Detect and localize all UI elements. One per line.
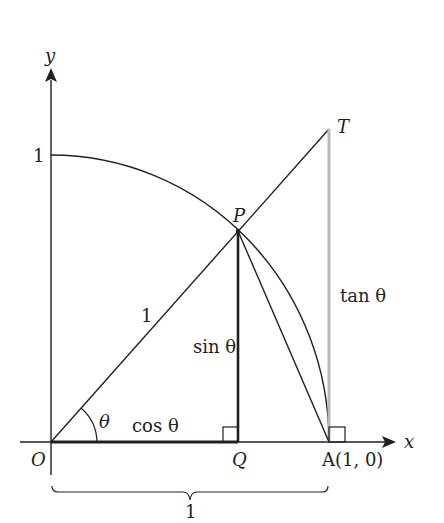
label-T: T [337, 116, 351, 137]
point-P-dot [236, 229, 240, 233]
label-A: A(1, 0) [321, 449, 383, 470]
y-axis [45, 68, 57, 475]
label-O: O [31, 449, 46, 470]
angle-theta-label: θ [99, 411, 110, 432]
cos-label: cos θ [132, 415, 179, 436]
unit-circle-diagram: y x 1 T P O Q A(1, 0) 1 sin θ cos θ tan … [0, 0, 444, 523]
brace-label: 1 [185, 501, 196, 522]
brace-OA [52, 486, 328, 500]
line-OT [51, 129, 329, 442]
y-tick-label-1: 1 [33, 145, 44, 166]
chord-PA [238, 231, 329, 442]
unit-circle-arc [51, 155, 329, 442]
y-axis-label: y [44, 45, 56, 66]
right-angle-marker-A [329, 427, 345, 442]
x-axis-label: x [404, 431, 414, 452]
label-P: P [232, 205, 246, 226]
angle-theta-arc [81, 408, 97, 442]
sin-label: sin θ [193, 336, 236, 357]
tan-label: tan θ [340, 285, 386, 306]
label-Q: Q [232, 449, 247, 470]
radius-label: 1 [141, 305, 152, 326]
y-axis-arrow-icon [45, 68, 57, 82]
right-angle-marker-Q [223, 427, 238, 442]
